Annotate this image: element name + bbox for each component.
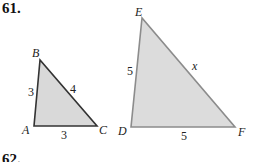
vertex-f-label: F xyxy=(237,125,246,139)
next-problem-number: 62. xyxy=(2,151,21,162)
similar-triangles-diagram: B A C 3 4 3 E D F 5 x 5 xyxy=(0,0,265,162)
side-bc-label: 4 xyxy=(70,82,76,96)
vertex-b-label: B xyxy=(32,46,40,60)
side-df-label: 5 xyxy=(181,129,187,143)
triangle-def: E D F 5 x 5 xyxy=(117,5,246,143)
triangle-abc: B A C 3 4 3 xyxy=(21,46,108,142)
vertex-e-label: E xyxy=(134,5,143,19)
side-ef-label: x xyxy=(191,59,198,73)
side-ac-label: 3 xyxy=(61,128,67,142)
vertex-a-label: A xyxy=(21,123,30,137)
side-ab-label: 3 xyxy=(28,85,34,99)
side-de-label: 5 xyxy=(127,64,133,78)
vertex-c-label: C xyxy=(99,123,108,137)
vertex-d-label: D xyxy=(117,124,127,138)
